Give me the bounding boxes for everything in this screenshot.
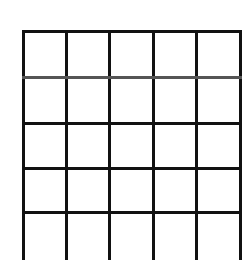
grid-horizontal-line xyxy=(22,211,242,214)
grid-vertical-line xyxy=(108,30,111,260)
grid-vertical-line xyxy=(22,30,25,260)
grid-horizontal-line xyxy=(22,122,242,125)
grid-horizontal-line xyxy=(22,30,242,33)
grid-horizontal-line xyxy=(22,167,242,170)
grid-5x5 xyxy=(22,30,242,260)
grid-vertical-line xyxy=(65,30,68,260)
grid-vertical-line xyxy=(152,30,155,260)
grid-vertical-line xyxy=(239,30,242,260)
grid-horizontal-line xyxy=(22,76,242,79)
grid-vertical-line xyxy=(195,30,198,260)
